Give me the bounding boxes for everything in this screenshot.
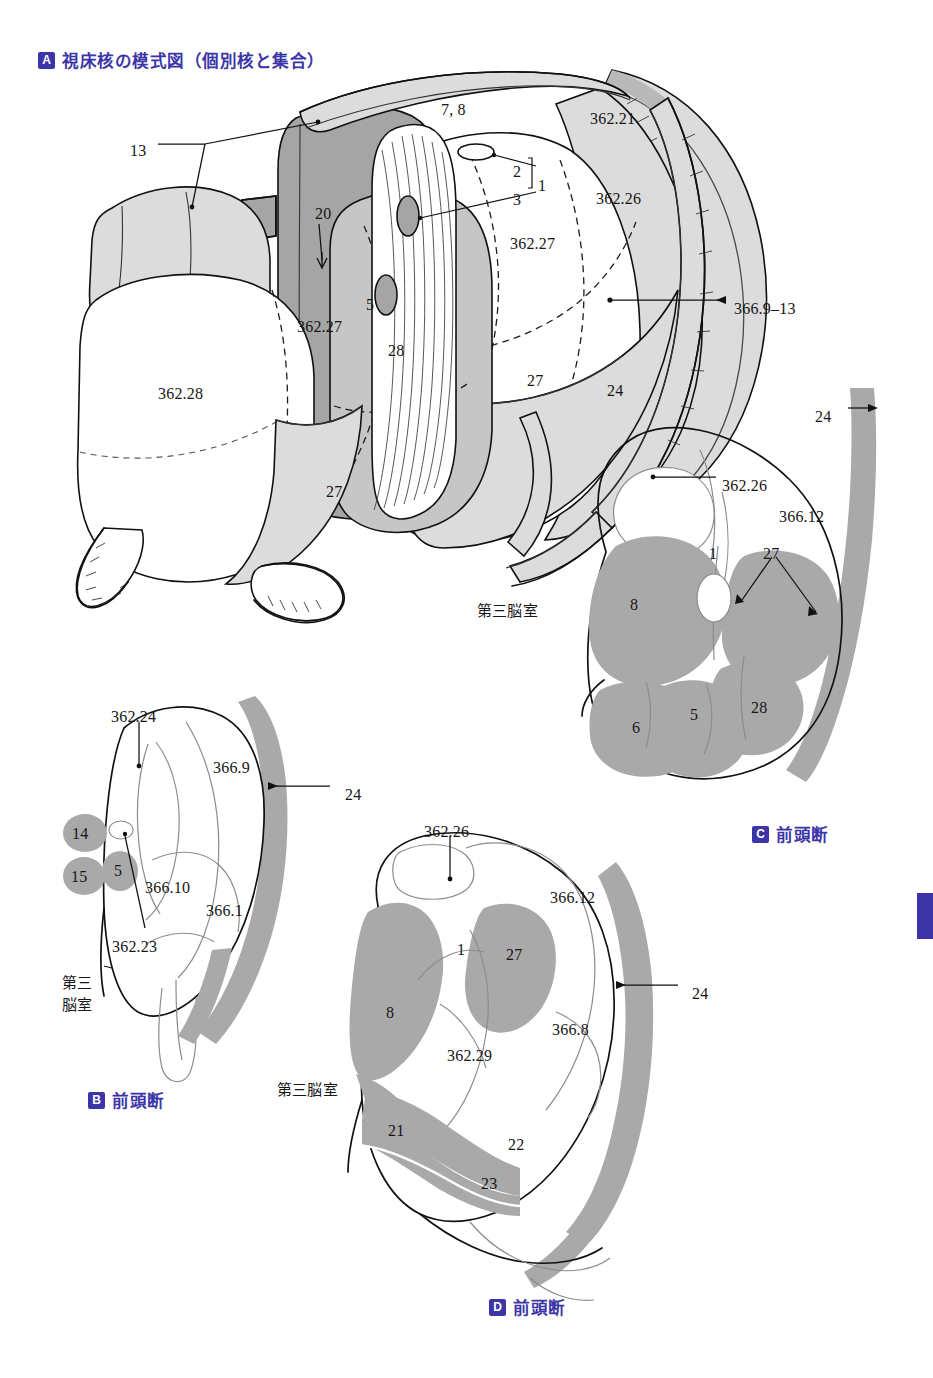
figure-label: 第三 — [62, 974, 92, 992]
figure-label: 27 — [763, 545, 779, 563]
figure-label: 366.12 — [779, 508, 824, 526]
figure-label: 24 — [815, 408, 831, 426]
panel-d-badge: D — [489, 1299, 506, 1316]
figure-label: 366.9–13 — [734, 300, 796, 318]
figure-label: 366.10 — [145, 879, 190, 897]
figure-label: 27 — [527, 372, 543, 390]
figure-label: 362.26 — [722, 477, 767, 495]
panel-a-caption: A 視床核の模式図（個別核と集合） — [38, 48, 325, 72]
figure-label: 8 — [386, 1004, 394, 1022]
figure-label: 28 — [751, 699, 767, 717]
figure-label: 5 — [114, 862, 122, 880]
figure-label: 23 — [481, 1175, 497, 1193]
figure-label: 1 — [457, 941, 465, 959]
figure-label: 15 — [71, 868, 87, 886]
figure-label: 24 — [607, 382, 623, 400]
panel-b-caption-text: 前頭断 — [112, 1088, 165, 1112]
figure-label: 1 — [538, 177, 546, 195]
figure-label: 362.26 — [424, 823, 469, 841]
atlas-page: A 視床核の模式図（個別核と集合） 13 7, 8 362.21 2 3 1 3… — [0, 0, 933, 1378]
figure-label: 6 — [632, 719, 640, 737]
figure-label: 362.26 — [596, 190, 641, 208]
figure-label: 362.24 — [111, 708, 156, 726]
figure-label: 3 — [513, 191, 521, 209]
figure-label: 第三脳室 — [477, 602, 538, 620]
figure-label: 2 — [513, 163, 521, 181]
figure-label: 5 — [366, 296, 374, 314]
figure-label: 22 — [508, 1136, 524, 1154]
panel-c-badge: C — [752, 826, 769, 843]
panel-b-badge: B — [88, 1092, 105, 1109]
figure-label: 362.21 — [590, 110, 635, 128]
panel-d-caption: D 前頭断 — [489, 1295, 566, 1319]
figure-label: 27 — [326, 483, 342, 501]
figure-d-artwork — [0, 0, 933, 1378]
figure-label: 362.28 — [158, 385, 203, 403]
figure-label: 13 — [130, 142, 146, 160]
figure-label: 362.27 — [297, 318, 342, 336]
panel-b-caption: B 前頭断 — [88, 1088, 165, 1112]
figure-label: 28 — [388, 342, 404, 360]
figure-label: 1 — [709, 545, 717, 563]
panel-a-badge: A — [38, 52, 55, 69]
figure-label: 脳室 — [62, 996, 92, 1014]
figure-label: 366.12 — [550, 889, 595, 907]
panel-a-caption-text: 視床核の模式図（個別核と集合） — [62, 48, 325, 72]
figure-label: 第三脳室 — [277, 1081, 338, 1099]
figure-label: 20 — [315, 205, 331, 223]
figure-label: 5 — [690, 706, 698, 724]
panel-d-caption-text: 前頭断 — [513, 1295, 566, 1319]
figure-label: 14 — [72, 825, 88, 843]
figure-label: 24 — [692, 985, 708, 1003]
figure-label: 362.23 — [112, 938, 157, 956]
figure-label: 7, 8 — [441, 101, 466, 119]
figure-label: 366.9 — [213, 759, 250, 777]
figure-label: 366.8 — [552, 1021, 589, 1039]
figure-label: 362.27 — [510, 235, 555, 253]
figure-label: 8 — [630, 596, 638, 614]
figure-label: 27 — [506, 946, 522, 964]
panel-c-caption: C 前頭断 — [752, 822, 829, 846]
figure-label: 366.1 — [206, 902, 243, 920]
figure-label: 362.29 — [447, 1047, 492, 1065]
figure-label: 21 — [388, 1122, 404, 1140]
page-thumb-tab — [917, 893, 933, 939]
panel-c-caption-text: 前頭断 — [776, 822, 829, 846]
figure-label: 24 — [345, 786, 361, 804]
